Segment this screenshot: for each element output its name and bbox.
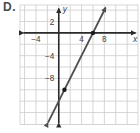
y-tick-label: 2 [50,18,55,27]
plot-area [20,5,138,125]
y-tick-label: −4 [45,52,55,61]
y-tick-label: −8 [45,74,55,83]
x-axis-label: x [132,34,138,44]
answer-option-d-figure: D. −4482−4−8xy [0,0,140,133]
coordinate-graph: −4482−4−8xy [0,0,140,133]
y-axis-label: y [62,4,68,14]
x-tick-label: −4 [31,35,41,44]
x-tick-label: 4 [79,35,84,44]
data-point [91,31,95,35]
x-tick-label: 8 [102,35,107,44]
data-point [62,88,66,92]
